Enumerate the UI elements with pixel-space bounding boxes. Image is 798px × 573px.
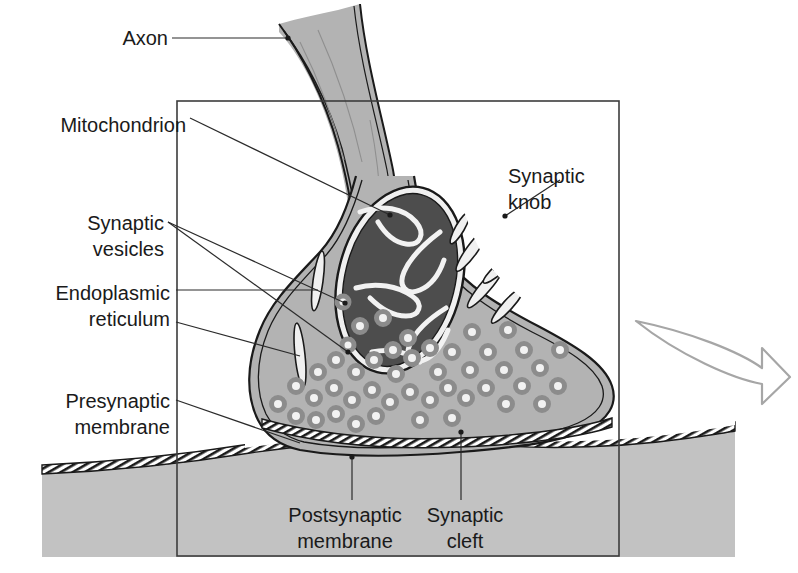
- label-synaptic-cleft-line1: Synaptic: [427, 504, 504, 526]
- leader-dot-vesicle-a: [342, 300, 347, 305]
- vesicle: [552, 380, 565, 393]
- vesicle: [466, 326, 479, 339]
- leader-dot-synaptic-cleft: [458, 429, 463, 434]
- vesicle: [290, 410, 303, 423]
- label-endoplasmic-reticulum-line1: Endoplasmic: [55, 282, 170, 304]
- label-synaptic-knob-line2: knob: [508, 191, 551, 213]
- vesicle: [534, 362, 547, 375]
- direction-arrow-shape: [636, 321, 790, 404]
- label-presynaptic-membrane-line1: Presynaptic: [66, 390, 171, 412]
- vesicle: [290, 380, 303, 393]
- er-cisterna-5-body: [480, 250, 519, 287]
- direction-arrow: [636, 321, 790, 404]
- vesicle: [328, 382, 341, 395]
- vesicle: [464, 364, 477, 377]
- vesicle: [498, 364, 511, 377]
- vesicle: [312, 366, 325, 379]
- label-postsynaptic-membrane-line1: Postsynaptic: [288, 504, 401, 526]
- vesicle: [330, 408, 343, 421]
- vesicle: [500, 398, 513, 411]
- vesicle: [446, 412, 459, 425]
- vesicle: [482, 346, 495, 359]
- vesicle: [414, 414, 427, 427]
- label-presynaptic-membrane-line2: membrane: [74, 416, 170, 438]
- vesicle: [424, 342, 437, 355]
- vesicle: [272, 398, 285, 411]
- vesicle: [480, 382, 493, 395]
- vesicle: [518, 344, 531, 357]
- vesicle: [502, 324, 515, 337]
- vesicle: [366, 384, 379, 397]
- vesicle: [404, 386, 417, 399]
- label-synaptic-vesicles-line1: Synaptic: [87, 212, 164, 234]
- vesicle: [446, 346, 459, 359]
- label-endoplasmic-reticulum-line2: reticulum: [89, 308, 170, 330]
- vesicle: [310, 414, 323, 427]
- leader-dot-postsynaptic-membrane: [349, 454, 354, 459]
- vesicle: [406, 352, 419, 365]
- vesicle: [330, 354, 343, 367]
- leader-dot-mitochondrion: [387, 212, 392, 217]
- label-postsynaptic-membrane-line2: membrane: [297, 530, 393, 552]
- vesicle: [384, 396, 397, 409]
- vesicle: [350, 418, 363, 431]
- label-synaptic-cleft-line2: cleft: [447, 530, 484, 552]
- vesicle: [354, 320, 367, 333]
- vesicle: [377, 312, 390, 325]
- synaptic-knob: [249, 173, 613, 456]
- figure-canvas: Axon Mitochondrion Synaptic vesicles End…: [0, 0, 798, 573]
- label-mitochondrion: Mitochondrion: [60, 114, 186, 136]
- leader-dot-synaptic-knob: [502, 213, 507, 218]
- vesicle: [554, 344, 567, 357]
- synapse-diagram: Axon Mitochondrion Synaptic vesicles End…: [0, 0, 798, 573]
- vesicle: [387, 344, 400, 357]
- label-synaptic-knob-line1: Synaptic: [508, 165, 585, 187]
- leader-dot-axon: [285, 35, 290, 40]
- vesicle: [536, 398, 549, 411]
- label-axon: Axon: [122, 27, 168, 49]
- vesicle: [442, 382, 455, 395]
- label-synaptic-vesicles-line2: vesicles: [93, 238, 164, 260]
- vesicle: [516, 380, 529, 393]
- vesicle: [346, 394, 359, 407]
- vesicle: [460, 392, 473, 405]
- vesicle: [370, 410, 383, 423]
- vesicle: [390, 368, 403, 381]
- vesicle: [424, 394, 437, 407]
- leader-dot-vesicle-b: [345, 349, 350, 354]
- vesicle: [402, 332, 415, 345]
- vesicle: [350, 366, 363, 379]
- vesicle: [432, 366, 445, 379]
- vesicle: [308, 392, 321, 405]
- vesicle: [368, 354, 381, 367]
